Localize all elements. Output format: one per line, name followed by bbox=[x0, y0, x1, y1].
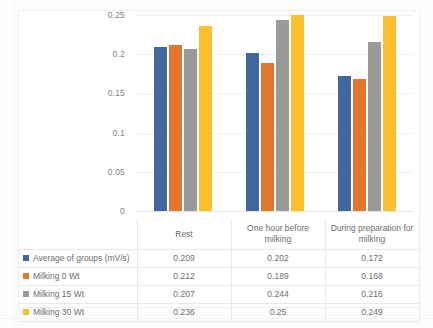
legend-swatch-icon bbox=[23, 309, 29, 315]
legend-label: Milking 0 Wt bbox=[33, 271, 79, 281]
scan-artifact-vertical bbox=[14, 0, 15, 328]
y-axis-tick-label: 0.1 bbox=[113, 128, 125, 138]
bar[interactable] bbox=[169, 45, 182, 211]
table-cell-value: 0.249 bbox=[325, 304, 419, 322]
bar-groups bbox=[137, 15, 413, 211]
table-cell-value: 0.244 bbox=[231, 286, 325, 304]
legend-entry[interactable]: Milking 0 Wt bbox=[19, 268, 137, 286]
legend-entry[interactable]: Milking 15 Wt bbox=[19, 286, 137, 304]
plot-canvas bbox=[137, 15, 413, 211]
table-column-header: Rest bbox=[137, 219, 231, 250]
legend-swatch-icon bbox=[23, 291, 29, 297]
table-column-header: During preparation for milking bbox=[325, 219, 419, 250]
table-row: Milking 0 Wt0.2120.1890.168 bbox=[19, 268, 419, 286]
bar[interactable] bbox=[276, 20, 289, 211]
table-cell-value: 0.25 bbox=[231, 304, 325, 322]
table-cell-value: 0.236 bbox=[137, 304, 231, 322]
gridline bbox=[137, 211, 413, 212]
bar-group bbox=[137, 15, 229, 211]
legend-label: Milking 30 Wt bbox=[33, 307, 84, 317]
table-column-header: One hour before milking bbox=[231, 219, 325, 250]
table-cell-value: 0.172 bbox=[325, 250, 419, 268]
y-axis-tick-label: 0.05 bbox=[108, 167, 125, 177]
y-axis-tick-label: 0 bbox=[120, 206, 125, 216]
table-row: Milking 15 Wt0.2070.2440.216 bbox=[19, 286, 419, 304]
legend-label: Average of groups (mV/s) bbox=[33, 253, 130, 263]
legend-swatch-icon bbox=[23, 273, 29, 279]
y-axis: 00.050.10.150.20.25 bbox=[19, 15, 131, 221]
bar-group bbox=[321, 15, 413, 211]
bar[interactable] bbox=[368, 42, 381, 211]
bar[interactable] bbox=[261, 63, 274, 211]
bar[interactable] bbox=[199, 26, 212, 211]
data-table: RestOne hour before milkingDuring prepar… bbox=[19, 219, 420, 322]
table-cell-value: 0.212 bbox=[137, 268, 231, 286]
y-axis-tick-label: 0.15 bbox=[108, 88, 125, 98]
bar-group bbox=[229, 15, 321, 211]
table-row: Milking 30 Wt0.2360.250.249 bbox=[19, 304, 419, 322]
table-cell-value: 0.216 bbox=[325, 286, 419, 304]
legend-entry[interactable]: Average of groups (mV/s) bbox=[19, 250, 137, 268]
bar[interactable] bbox=[291, 15, 304, 211]
bar-chart: 00.050.10.150.20.25 RestOne hour before … bbox=[18, 10, 420, 308]
bar[interactable] bbox=[246, 53, 259, 211]
legend-entry[interactable]: Milking 30 Wt bbox=[19, 304, 137, 322]
legend-label: Milking 15 Wt bbox=[33, 289, 84, 299]
table-cell-value: 0.207 bbox=[137, 286, 231, 304]
table-row: Average of groups (mV/s)0.2090.2020.172 bbox=[19, 250, 419, 268]
bar[interactable] bbox=[154, 47, 167, 211]
table-cell-value: 0.168 bbox=[325, 268, 419, 286]
bar[interactable] bbox=[184, 49, 197, 211]
legend-swatch-icon bbox=[23, 255, 29, 261]
y-axis-tick-label: 0.2 bbox=[113, 49, 125, 59]
table-header-row: RestOne hour before milkingDuring prepar… bbox=[19, 219, 419, 250]
bar[interactable] bbox=[383, 16, 396, 211]
bar[interactable] bbox=[338, 76, 351, 211]
table-cell-value: 0.202 bbox=[231, 250, 325, 268]
table-corner-cell bbox=[19, 219, 137, 250]
plot-area: 00.050.10.150.20.25 bbox=[19, 15, 419, 221]
table-cell-value: 0.189 bbox=[231, 268, 325, 286]
table-cell-value: 0.209 bbox=[137, 250, 231, 268]
y-axis-tick-label: 0.25 bbox=[108, 10, 125, 20]
bar[interactable] bbox=[353, 79, 366, 211]
